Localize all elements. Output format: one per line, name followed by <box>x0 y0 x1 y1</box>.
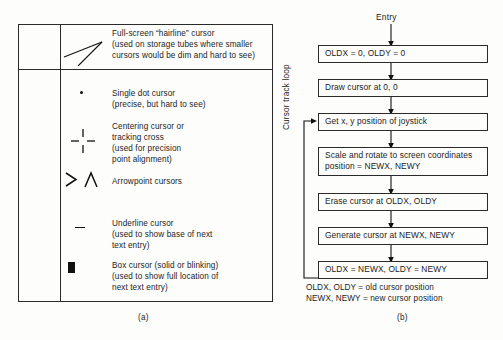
flow-step-scale-and-rotate: Scale and rotate to screen coordinates p… <box>318 147 488 176</box>
cursor-table-vertical-divider <box>60 24 61 302</box>
flow-step-init-oldx-oldy: OLDX = 0, OLDY = 0 <box>318 45 488 63</box>
cursor-description-underline: Underline cursor (used to show base of n… <box>112 218 212 251</box>
underline-cursor-icon <box>75 227 85 228</box>
flow-step-generate-cursor: Generate cursor at NEWX, NEWY <box>318 227 488 245</box>
flowchart-entry-label: Entry <box>376 12 397 22</box>
flowchart-legend: OLDX, OLDY = old cursor position NEWX, N… <box>306 282 443 304</box>
panel-b-label: (b) <box>397 313 408 322</box>
cursor-description-box: Box cursor (solid or blinking) (used to … <box>112 260 218 293</box>
flow-step-draw-cursor: Draw cursor at 0, 0 <box>318 79 488 97</box>
flow-step-erase-cursor: Erase cursor at OLDX, OLDY <box>318 193 488 211</box>
flow-step-get-joystick-position: Get x, y position of joystick <box>318 113 488 131</box>
box-cursor-icon <box>68 262 75 273</box>
cursor-track-loop-label: Cursor track loop <box>282 10 291 130</box>
centering-cross-cursor-icon <box>70 128 96 154</box>
cursor-description-arrowpoint: Arrowpoint cursors <box>112 176 182 187</box>
figure-page: Full-screen “hairline” cursor (used on s… <box>0 0 503 340</box>
cursor-description-hairline: Full-screen “hairline” cursor (used on s… <box>112 28 255 61</box>
cursor-table-horizontal-divider <box>18 69 273 70</box>
panel-a-label: (a) <box>138 313 149 322</box>
cursor-description-centering-cross: Centering cursor or tracking cross (used… <box>112 121 184 165</box>
cursor-description-single-dot: Single dot cursor (precise, but hard to … <box>112 88 206 110</box>
arrowpoint-cursor-icon <box>64 171 100 189</box>
flow-step-update-oldx-oldy: OLDX = NEWX, OLDY = NEWY <box>318 261 488 279</box>
